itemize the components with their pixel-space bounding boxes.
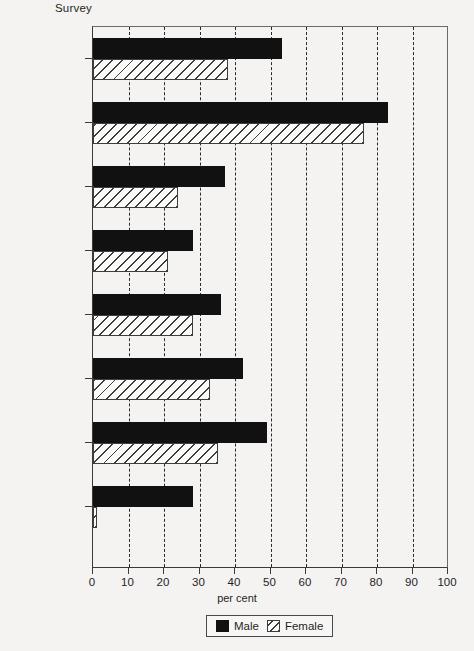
bar-male-thailand (93, 486, 193, 507)
legend-item-female: Female (267, 620, 323, 632)
x-tick-label-90: 90 (392, 576, 432, 588)
x-tick-30 (199, 568, 200, 574)
bar-male-guinea-bissau (93, 102, 388, 123)
bar-male-togo (93, 166, 225, 187)
x-axis-title-wrap: per cent (0, 592, 474, 604)
x-tick-label-30: 30 (179, 576, 219, 588)
y-tick-mauritius (85, 442, 94, 443)
y-tick-thailand (85, 506, 94, 507)
bar-male-burundi (93, 230, 193, 251)
x-tick-20 (163, 568, 164, 574)
gridline-90 (413, 27, 414, 567)
x-tick-label-20: 20 (143, 576, 183, 588)
y-tick-guinea-bissau (85, 122, 94, 123)
bar-male-mauritius (93, 422, 267, 443)
legend-item-male: Male (216, 620, 259, 632)
y-tick-car (85, 58, 94, 59)
x-tick-label-10: 10 (108, 576, 148, 588)
x-tick-80 (376, 568, 377, 574)
x-tick-label-0: 0 (72, 576, 112, 588)
bar-female-mauritius (93, 443, 218, 464)
bar-chart: Survey (0, 0, 474, 651)
bar-female-togo (93, 187, 178, 208)
bar-female-kenya (93, 315, 193, 336)
x-tick-label-100: 100 (427, 576, 467, 588)
x-tick-label-60: 60 (285, 576, 325, 588)
x-tick-50 (270, 568, 271, 574)
bar-female-thailand (93, 507, 97, 528)
x-tick-label-50: 50 (250, 576, 290, 588)
bar-male-tanzania (93, 358, 243, 379)
x-tick-90 (412, 568, 413, 574)
y-tick-kenya (85, 314, 94, 315)
x-axis-title: per cent (217, 592, 257, 604)
x-tick-label-70: 70 (321, 576, 361, 588)
legend-swatch-female-icon (267, 620, 280, 632)
x-tick-100 (447, 568, 448, 574)
bar-female-guinea-bissau (93, 123, 364, 144)
bar-female-burundi (93, 251, 168, 272)
x-tick-70 (341, 568, 342, 574)
y-tick-tanzania (85, 378, 94, 379)
y-tick-burundi (85, 250, 94, 251)
bar-male-kenya (93, 294, 221, 315)
x-tick-0 (92, 568, 93, 574)
plot-area (92, 26, 448, 568)
x-tick-10 (128, 568, 129, 574)
x-tick-label-40: 40 (214, 576, 254, 588)
y-axis-title: Survey (55, 2, 92, 14)
bar-male-car (93, 38, 282, 59)
bar-female-tanzania (93, 379, 210, 400)
legend-swatch-male-icon (216, 620, 229, 632)
x-tick-60 (305, 568, 306, 574)
x-tick-label-80: 80 (356, 576, 396, 588)
bar-female-car (93, 59, 228, 80)
legend-label-male: Male (234, 620, 259, 632)
y-tick-togo (85, 186, 94, 187)
legend: Male Female (206, 615, 333, 637)
x-tick-40 (234, 568, 235, 574)
legend-label-female: Female (285, 620, 323, 632)
